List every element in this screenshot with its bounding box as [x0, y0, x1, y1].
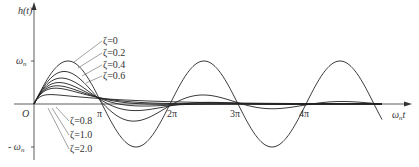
y-tick-label-omega-n: ωn: [16, 55, 27, 68]
zeta-label: ζ=0.8: [70, 115, 92, 127]
curve-zeta-2: [34, 95, 382, 104]
zeta-label: ζ=0.2: [103, 47, 125, 59]
y-tick-label-neg-omega-n: - ωn: [8, 141, 25, 154]
leader-line: [48, 108, 69, 149]
x-tick-label-pi: π: [97, 108, 102, 119]
leader-line: [82, 65, 102, 76]
zeta-label: ζ=1.0: [70, 129, 92, 141]
x-tick-label-2pi: 2π: [167, 108, 177, 119]
x-axis-label: ωnt: [392, 109, 406, 122]
zeta-label: ζ=2.0: [70, 143, 92, 155]
y-axis-label: h(t): [18, 5, 33, 17]
x-axis-arrow-icon: [404, 102, 412, 107]
x-tick-label-3pi: 3π: [230, 108, 240, 119]
impulse-response-chart: h(t) ωnt ωn - ωn O π 2π 3π 4π ζ=0ζ=0.2ζ=…: [0, 0, 419, 167]
zeta-label: ζ=0.6: [103, 70, 125, 82]
leader-line: [56, 107, 69, 121]
leader-line: [78, 53, 102, 68]
curve-zeta-0-2: [34, 71, 382, 121]
leader-line: [74, 41, 102, 62]
origin-label: O: [22, 108, 29, 119]
x-tick-label-4pi: 4π: [299, 108, 309, 119]
zeta-label: ζ=0: [103, 35, 118, 47]
